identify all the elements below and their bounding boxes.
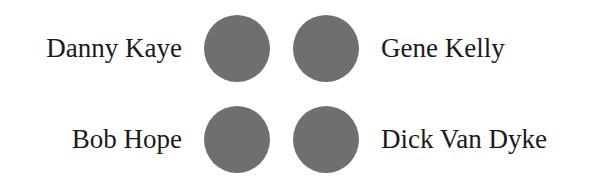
dot-bottom-left — [204, 106, 270, 173]
label-danny-kaye: Danny Kaye — [46, 35, 182, 62]
dot-top-right — [293, 15, 359, 82]
label-dick-van-dyke: Dick Van Dyke — [381, 126, 547, 153]
label-gene-kelly: Gene Kelly — [381, 35, 505, 62]
label-bob-hope: Bob Hope — [72, 126, 182, 153]
dot-top-left — [204, 15, 270, 82]
dot-bottom-right — [293, 106, 359, 173]
